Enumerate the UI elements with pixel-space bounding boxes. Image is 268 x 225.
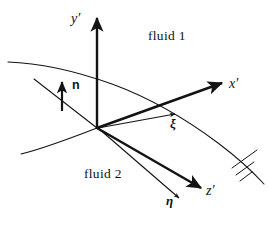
axis-label-z-prime: z′ [206, 184, 215, 198]
interface-curve [8, 62, 264, 184]
xi-arrow [98, 114, 175, 128]
diagram-canvas [0, 0, 268, 225]
interface-generator-line [21, 128, 97, 154]
region-label-fluid-1: fluid 1 [148, 29, 186, 43]
eta-arrow [98, 128, 179, 198]
region-label-fluid-2: fluid 2 [84, 167, 122, 181]
axis-label-y-prime: y′ [71, 12, 80, 26]
surface-coordinate-label-eta: η [166, 194, 173, 207]
x-prime-axis [97, 83, 222, 128]
normal-vector-label: n [72, 79, 80, 92]
fluid-interface-diagram: fluid 1 fluid 2 y′ x′ z′ ξ η n [0, 0, 268, 225]
hatch-mark-3 [240, 172, 252, 181]
axis-label-x-prime: x′ [229, 77, 238, 91]
surface-coordinate-label-xi: ξ [170, 117, 176, 130]
x-prime-back-extension [34, 79, 97, 128]
